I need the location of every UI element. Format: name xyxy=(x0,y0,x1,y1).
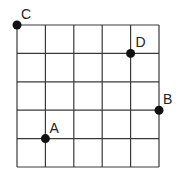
point-marker xyxy=(126,49,135,58)
point-d: D xyxy=(126,34,146,58)
point-c: C xyxy=(13,6,32,30)
point-a: A xyxy=(41,120,60,144)
point-label: A xyxy=(49,120,59,136)
point-b: B xyxy=(155,91,173,115)
point-label: B xyxy=(163,91,172,107)
point-label: D xyxy=(136,34,146,50)
point-label: C xyxy=(21,6,31,22)
grid-points: ABCD xyxy=(13,6,173,143)
coordinate-grid-diagram: ABCD xyxy=(0,0,180,175)
